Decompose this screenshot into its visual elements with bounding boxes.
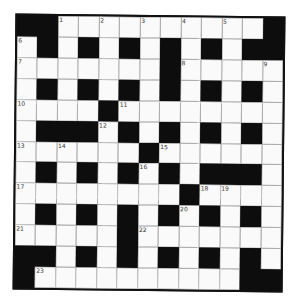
grid-cell[interactable] (16, 162, 37, 183)
grid-cell[interactable] (179, 164, 200, 185)
grid-cell[interactable] (35, 225, 56, 246)
grid-cell[interactable]: 21 (15, 225, 36, 246)
grid-cell[interactable] (97, 184, 118, 205)
grid-cell[interactable] (201, 18, 222, 39)
grid-cell[interactable] (139, 122, 160, 143)
grid-cell[interactable] (96, 268, 117, 289)
grid-cell[interactable]: 14 (57, 142, 78, 163)
grid-cell[interactable] (262, 102, 283, 123)
grid-cell[interactable] (77, 142, 98, 163)
grid-cell[interactable] (221, 60, 242, 81)
grid-cell[interactable] (118, 184, 139, 205)
grid-cell[interactable]: 3 (140, 17, 161, 38)
grid-cell[interactable]: 6 (17, 37, 38, 58)
grid-cell[interactable] (260, 248, 281, 269)
grid-cell[interactable] (219, 269, 240, 290)
grid-cell[interactable] (222, 39, 243, 60)
grid-cell[interactable] (199, 227, 220, 248)
grid-cell[interactable]: 19 (220, 185, 241, 206)
grid-cell[interactable] (241, 185, 262, 206)
grid-cell[interactable]: 12 (98, 121, 119, 142)
grid-cell[interactable]: 18 (200, 185, 221, 206)
grid-cell[interactable] (56, 225, 77, 246)
grid-cell[interactable] (57, 100, 78, 121)
grid-cell[interactable] (58, 58, 79, 79)
grid-cell[interactable] (200, 101, 221, 122)
grid-cell[interactable] (242, 18, 263, 39)
grid-cell[interactable] (36, 183, 57, 204)
grid-cell[interactable] (139, 101, 160, 122)
grid-cell[interactable] (119, 59, 140, 80)
grid-cell[interactable] (220, 206, 241, 227)
grid-cell[interactable] (56, 183, 77, 204)
grid-cell[interactable] (99, 37, 120, 58)
grid-cell[interactable] (180, 80, 201, 101)
grid-cell[interactable] (158, 268, 179, 289)
grid-cell[interactable] (241, 102, 262, 123)
grid-cell[interactable] (181, 38, 202, 59)
grid-cell[interactable] (178, 268, 199, 289)
grid-cell[interactable] (99, 58, 120, 79)
grid-cell[interactable] (261, 227, 282, 248)
grid-cell[interactable]: 9 (262, 60, 283, 81)
grid-cell[interactable] (76, 225, 97, 246)
grid-cell[interactable]: 1 (58, 16, 79, 37)
grid-cell[interactable] (120, 17, 141, 38)
grid-cell[interactable] (261, 206, 282, 227)
grid-cell[interactable] (221, 122, 242, 143)
grid-cell[interactable] (139, 80, 160, 101)
grid-cell[interactable] (98, 79, 119, 100)
grid-cell[interactable] (262, 123, 283, 144)
grid-cell[interactable]: 7 (17, 57, 38, 78)
grid-cell[interactable] (56, 246, 77, 267)
grid-cell[interactable] (159, 184, 180, 205)
grid-cell[interactable] (37, 100, 58, 121)
grid-cell[interactable] (16, 120, 37, 141)
grid-cell[interactable] (58, 37, 79, 58)
grid-cell[interactable]: 10 (16, 99, 37, 120)
grid-cell[interactable] (261, 186, 282, 207)
grid-cell[interactable]: 11 (119, 100, 140, 121)
grid-cell[interactable]: 2 (99, 16, 120, 37)
grid-cell[interactable] (242, 60, 263, 81)
grid-cell[interactable] (117, 268, 138, 289)
grid-cell[interactable] (56, 267, 77, 288)
grid-cell[interactable] (78, 58, 99, 79)
grid-cell[interactable] (180, 122, 201, 143)
grid-cell[interactable]: 16 (138, 163, 159, 184)
grid-cell[interactable] (240, 227, 261, 248)
grid-cell[interactable] (160, 17, 181, 38)
grid-cell[interactable]: 20 (179, 206, 200, 227)
grid-cell[interactable]: 15 (159, 143, 180, 164)
grid-cell[interactable] (180, 143, 201, 164)
grid-cell[interactable] (138, 184, 159, 205)
grid-cell[interactable] (200, 143, 221, 164)
grid-cell[interactable] (220, 143, 241, 164)
grid-cell[interactable] (36, 141, 57, 162)
grid-cell[interactable]: 23 (35, 267, 56, 288)
grid-cell[interactable]: 22 (138, 226, 159, 247)
grid-cell[interactable] (15, 204, 36, 225)
grid-cell[interactable] (220, 227, 241, 248)
grid-cell[interactable] (221, 81, 242, 102)
grid-cell[interactable] (241, 143, 262, 164)
grid-cell[interactable] (261, 144, 282, 165)
grid-cell[interactable] (97, 247, 118, 268)
grid-cell[interactable] (138, 205, 159, 226)
grid-cell[interactable]: 5 (222, 18, 243, 39)
grid-cell[interactable]: 13 (16, 141, 37, 162)
grid-cell[interactable] (98, 163, 119, 184)
grid-cell[interactable] (178, 247, 199, 268)
grid-cell[interactable]: 17 (15, 183, 36, 204)
grid-cell[interactable] (78, 100, 99, 121)
grid-cell[interactable] (221, 101, 242, 122)
grid-cell[interactable]: 4 (181, 17, 202, 38)
grid-cell[interactable]: 8 (180, 59, 201, 80)
grid-cell[interactable] (261, 165, 282, 186)
grid-cell[interactable] (160, 101, 181, 122)
grid-cell[interactable] (118, 142, 139, 163)
grid-cell[interactable] (140, 38, 161, 59)
grid-cell[interactable] (97, 205, 118, 226)
grid-cell[interactable] (158, 226, 179, 247)
grid-cell[interactable] (57, 162, 78, 183)
